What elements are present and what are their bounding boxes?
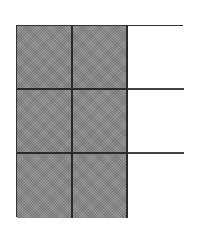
grid-cell-unshaded [128,154,184,218]
grid-cell-shaded [17,154,73,218]
grid-cell-unshaded [128,26,184,90]
grid-cell-unshaded [128,90,184,154]
fraction-grid [16,25,183,217]
grid-cell-shaded [73,26,128,90]
grid-cell-shaded [73,154,128,218]
grid-cell-shaded [73,90,128,154]
grid-cell-shaded [17,90,73,154]
grid-cell-shaded [17,26,73,90]
